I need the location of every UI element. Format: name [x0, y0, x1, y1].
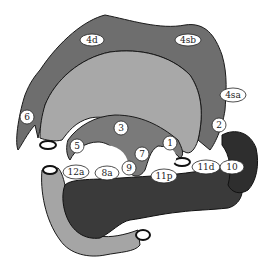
node-9: 9	[122, 161, 136, 175]
vessel-end-left-upper	[40, 141, 56, 149]
node-12a: 12a	[63, 165, 89, 179]
node-4d: 4d	[80, 34, 104, 46]
node-11d: 11d	[192, 160, 220, 174]
node-5: 5	[70, 139, 84, 153]
svg-text:9: 9	[126, 163, 132, 173]
svg-text:3: 3	[118, 123, 124, 133]
vessel-end-left-lower	[43, 166, 57, 174]
vessel-end-bottom	[136, 230, 150, 240]
node-1: 1	[163, 136, 177, 150]
svg-text:11d: 11d	[197, 162, 214, 172]
svg-text:10: 10	[226, 162, 238, 172]
node-7: 7	[135, 147, 149, 161]
node-2: 2	[212, 118, 226, 132]
node-11p: 11p	[151, 169, 177, 183]
svg-text:4sa: 4sa	[225, 90, 241, 100]
node-8a: 8a	[95, 166, 119, 180]
svg-text:5: 5	[74, 141, 80, 151]
node-6: 6	[20, 110, 34, 124]
svg-text:7: 7	[139, 149, 145, 159]
node-10: 10	[220, 160, 244, 174]
svg-text:12a: 12a	[68, 167, 85, 177]
svg-text:4d: 4d	[86, 35, 98, 45]
svg-text:2: 2	[216, 120, 222, 130]
lymph-node-diagram: 4d 4sb 4sa 6 2 3 5 1 7 9 12a 8a 11p 11d …	[0, 0, 268, 270]
svg-text:11p: 11p	[155, 171, 172, 181]
vessel-end-splenic	[174, 158, 190, 166]
svg-text:8a: 8a	[101, 168, 113, 178]
node-3: 3	[114, 121, 128, 135]
node-4sa: 4sa	[220, 88, 246, 102]
svg-text:1: 1	[167, 138, 173, 148]
svg-text:6: 6	[24, 112, 30, 122]
node-4sb: 4sb	[175, 34, 201, 46]
svg-text:4sb: 4sb	[180, 35, 196, 45]
